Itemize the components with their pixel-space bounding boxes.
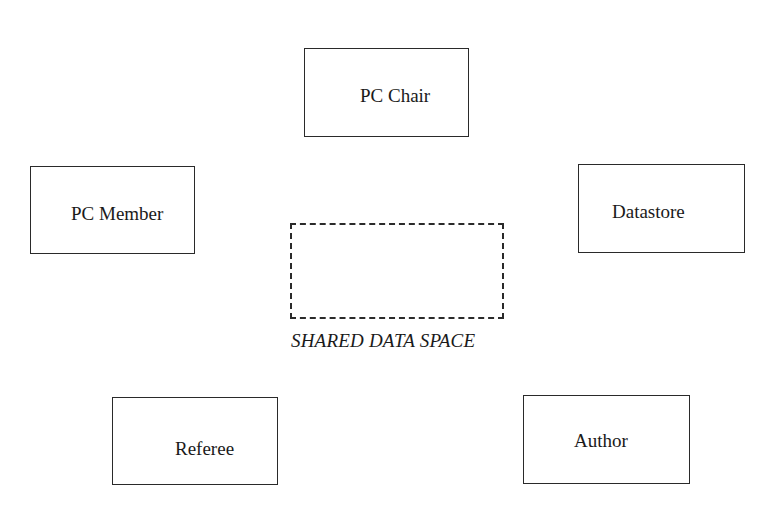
- pc-member-label: PC Member: [71, 204, 163, 223]
- datastore-label: Datastore: [612, 202, 685, 221]
- author-node: Author: [523, 395, 690, 484]
- shared-data-space-caption: SHARED DATA SPACE: [291, 331, 475, 350]
- author-label: Author: [574, 431, 628, 450]
- pc-chair-node: PC Chair: [304, 48, 469, 137]
- pc-member-node: PC Member: [30, 166, 195, 254]
- referee-node: Referee: [112, 397, 278, 485]
- datastore-node: Datastore: [578, 164, 745, 253]
- pc-chair-label: PC Chair: [360, 86, 430, 105]
- shared-data-space-box: [290, 223, 504, 319]
- referee-label: Referee: [175, 439, 234, 458]
